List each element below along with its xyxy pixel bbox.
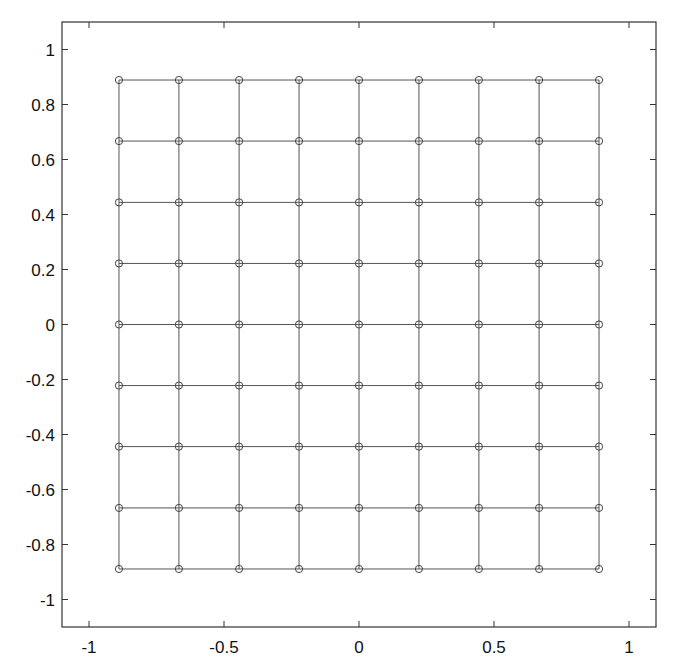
x-tick-label: 0	[354, 638, 363, 657]
y-tick-label: -0.4	[26, 426, 55, 445]
y-tick-label: 1	[46, 41, 55, 60]
y-tick-label: 0.6	[31, 151, 55, 170]
y-tick-label: -0.2	[26, 371, 55, 390]
y-tick-label: -0.8	[26, 536, 55, 555]
y-tick-label: 0.2	[31, 261, 55, 280]
x-tick-label: -0.5	[209, 638, 238, 657]
mesh-plot: -1-0.500.51 10.80.60.40.20-0.2-0.4-0.6-0…	[0, 0, 680, 672]
x-tick-label: -1	[81, 638, 96, 657]
y-tick-label: 0.4	[31, 206, 55, 225]
y-tick-label: 0	[46, 316, 55, 335]
x-tick-label: 1	[624, 638, 633, 657]
y-tick-label: 0.8	[31, 96, 55, 115]
y-tick-label: -1	[40, 591, 55, 610]
x-tick-label: 0.5	[482, 638, 506, 657]
y-tick-label: -0.6	[26, 481, 55, 500]
